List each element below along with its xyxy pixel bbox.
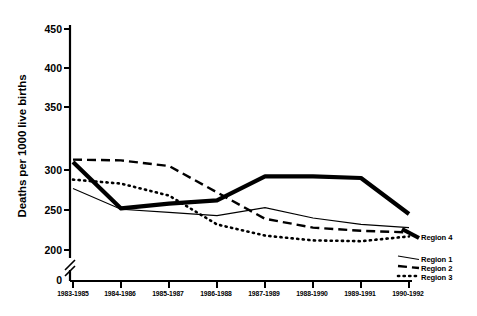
legend-swatch-region-1: [398, 256, 419, 260]
series-line-region-4: [73, 162, 409, 214]
chart-canvas: [0, 0, 477, 316]
series-group: [73, 160, 409, 242]
series-line-region-2: [73, 160, 409, 233]
axes-group: [64, 25, 412, 288]
line-chart: Deaths per 1000 live births 450 400 350 …: [0, 0, 477, 316]
legend-swatch-region-2: [398, 266, 419, 268]
